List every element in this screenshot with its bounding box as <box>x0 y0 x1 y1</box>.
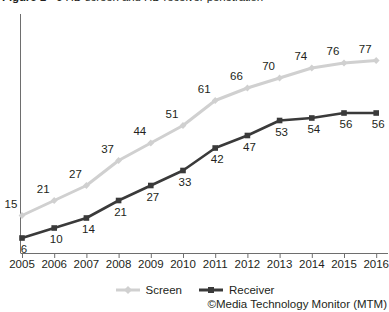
data-label-receiver-2012: 47 <box>234 141 264 153</box>
data-label-screen-2016: 77 <box>350 43 380 55</box>
data-label-screen-2015: 76 <box>318 45 348 57</box>
data-point-marker <box>309 115 315 121</box>
data-label-screen-2009: 44 <box>125 125 155 137</box>
legend-label-screen: Screen <box>146 284 182 296</box>
data-label-screen-2013: 70 <box>254 60 284 72</box>
data-point-marker <box>84 215 90 221</box>
data-label-receiver-2010: 33 <box>170 176 200 188</box>
data-label-screen-2006: 21 <box>28 183 58 195</box>
source-attribution: ©Media Technology Monitor (MTM) <box>207 298 387 310</box>
data-label-receiver-2008: 21 <box>106 206 136 218</box>
data-point-marker <box>277 118 283 124</box>
chart-legend: ScreenReceiver <box>0 282 389 298</box>
legend-label-receiver: Receiver <box>229 284 274 296</box>
data-point-marker <box>341 110 347 116</box>
data-point-marker <box>308 65 315 72</box>
data-label-receiver-2015: 56 <box>331 118 361 130</box>
figure-title-rest: HD screen and HD receiver penetration <box>62 0 263 3</box>
data-point-marker <box>245 133 251 139</box>
figure-title-prefix: Figure 1 • 6 <box>2 0 62 3</box>
data-label-receiver-2007: 14 <box>73 223 103 235</box>
legend-entry-receiver[interactable]: Receiver <box>198 284 274 296</box>
data-label-screen-2010: 51 <box>157 108 187 120</box>
legend-entry-screen[interactable]: Screen <box>115 284 182 296</box>
data-label-screen-2005: 15 <box>0 198 26 210</box>
data-label-receiver-2011: 42 <box>202 153 232 165</box>
data-label-screen-2008: 37 <box>93 143 123 155</box>
data-point-marker <box>373 110 379 116</box>
data-point-marker <box>116 198 122 204</box>
data-point-marker <box>19 235 25 241</box>
diamond-marker-icon <box>115 284 141 296</box>
data-label-receiver-2014: 54 <box>299 123 329 135</box>
data-label-receiver-2006: 10 <box>41 233 71 245</box>
data-label-receiver-2013: 53 <box>267 126 297 138</box>
data-point-marker <box>276 75 283 82</box>
data-label-screen-2011: 61 <box>189 83 219 95</box>
chart-plot-area: 1521273744516166707476776101421273342475… <box>0 8 389 258</box>
data-point-marker <box>212 145 218 151</box>
data-point-marker <box>180 168 186 174</box>
data-point-marker <box>341 60 348 67</box>
data-point-marker <box>373 57 380 64</box>
data-label-screen-2014: 74 <box>286 50 316 62</box>
x-tick-label-2016: 2016 <box>356 258 389 270</box>
x-axis-tick-labels: 2005200620072008200920102011201220132014… <box>0 258 389 276</box>
data-label-receiver-2005: 6 <box>9 243 39 255</box>
data-label-receiver-2016: 56 <box>363 118 389 130</box>
figure-container: Figure 1 • 6 HD screen and HD receiver p… <box>0 0 389 312</box>
figure-title: Figure 1 • 6 HD screen and HD receiver p… <box>2 0 389 7</box>
data-point-marker <box>148 183 154 189</box>
data-label-receiver-2009: 27 <box>138 191 168 203</box>
data-point-marker <box>51 225 57 231</box>
data-label-screen-2007: 27 <box>60 168 90 180</box>
series-screen <box>19 57 380 219</box>
data-label-screen-2012: 66 <box>221 70 251 82</box>
square-marker-icon <box>198 284 224 296</box>
